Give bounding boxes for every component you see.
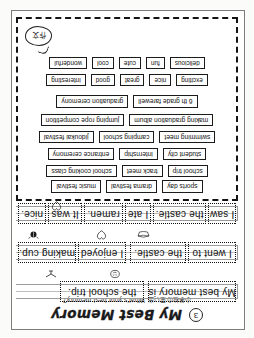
answer-text: I enjoyed	[81, 248, 123, 258]
word-chip[interactable]: great	[120, 74, 145, 86]
word-chip[interactable]: school trip	[168, 165, 208, 178]
word-chip[interactable]: sports day	[162, 180, 202, 193]
beetle-icon	[28, 231, 39, 239]
page-title: My Best Memory	[51, 307, 182, 323]
word-row: swimming meet camping school jidoukai fe…	[22, 131, 232, 144]
answer-segment[interactable]: I went to	[188, 242, 236, 263]
margin-tick	[237, 207, 238, 221]
answer-segment[interactable]: making cup.	[18, 242, 76, 263]
answer-text: I saw	[210, 209, 234, 219]
answer-text: the school trip.	[68, 287, 136, 297]
answer-segment[interactable]: ramen.	[84, 203, 123, 224]
word-chip[interactable]: swimming meet	[159, 131, 215, 144]
answer-segment[interactable]: nice.	[18, 203, 46, 224]
word-chip[interactable]: 6 th grade farewell	[133, 95, 197, 108]
answer-text: the castle.	[134, 248, 182, 258]
answer-text: ramen.	[87, 209, 119, 219]
word-row: making graduation album jumping rope com…	[22, 114, 232, 127]
smiley-face-icon	[110, 269, 120, 279]
answer-segment[interactable]: I ate	[125, 203, 151, 224]
answer-text: making cup.	[19, 248, 75, 258]
answer-text: I ate	[128, 209, 148, 219]
answer-segment[interactable]: I enjoyed	[78, 242, 126, 263]
word-chip[interactable]: fun	[146, 57, 165, 69]
answer-text: My best memory is	[148, 287, 235, 297]
word-chip[interactable]: good	[91, 74, 115, 86]
circled-number-icon: 3	[189, 308, 203, 322]
word-row: school trip track meet school cooking cl…	[22, 165, 232, 178]
word-row: student city internship entrance ceremon…	[22, 148, 232, 161]
answer-segment[interactable]: My best memory is	[148, 281, 236, 302]
word-chip[interactable]: school cooking class	[46, 165, 116, 178]
speech-balloon-icon: 作文	[26, 28, 52, 49]
scanned-page-rotated: 3 My Best Memory 小学校の思い出What's your best…	[0, 0, 254, 338]
answer-text: I went to	[192, 248, 232, 258]
word-chip[interactable]: jumping rope competition	[41, 114, 125, 127]
balloon-text: 作文	[25, 26, 52, 46]
bird-icon	[45, 270, 57, 279]
heart-icon	[51, 201, 62, 211]
answer-text: the castle.	[156, 209, 204, 219]
title-row: 3 My Best Memory	[10, 307, 244, 323]
answer-segment[interactable]: the school trip.	[60, 281, 144, 302]
word-chip[interactable]: cute	[119, 57, 141, 69]
word-chip[interactable]: nice	[149, 74, 171, 86]
word-chip[interactable]: making graduation album	[129, 114, 213, 127]
worksheet-sheet: 3 My Best Memory 小学校の思い出What's your best…	[11, 10, 245, 330]
word-chip[interactable]: camping school	[99, 131, 155, 144]
word-chip[interactable]: internship	[119, 148, 158, 161]
word-row: delicious fun cute cool wonderful	[22, 57, 232, 69]
writing-area: My best memory is the school trip.	[16, 190, 238, 303]
word-chip[interactable]: graduation ceremony	[56, 95, 128, 108]
word-row: exciting nice great good interesting	[22, 74, 232, 86]
word-chip[interactable]: interesting	[46, 74, 86, 86]
word-row: 6 th grade farewell graduation ceremony	[22, 95, 232, 108]
margin-tick	[237, 246, 238, 260]
heart-icon	[96, 230, 107, 240]
word-chip[interactable]: cool	[92, 57, 114, 69]
word-bank: sports day drama festival music festival…	[16, 17, 238, 201]
word-chip[interactable]: student city	[163, 148, 206, 161]
word-chip[interactable]: entrance ceremony	[48, 148, 114, 161]
word-chip[interactable]: track meet	[122, 165, 163, 178]
answer-segment[interactable]: the castle.	[130, 242, 186, 263]
word-chip[interactable]: jidoukai festival	[39, 131, 94, 144]
answer-segment[interactable]: I saw	[208, 203, 236, 224]
writing-line-2[interactable]: I went to the castle. I enjoyed making c…	[16, 229, 238, 264]
word-chip[interactable]: wonderful	[49, 57, 87, 69]
margin-tick	[237, 285, 238, 299]
answer-segment[interactable]: the castle.	[153, 203, 206, 224]
answer-text: nice.	[21, 209, 43, 219]
word-chip[interactable]: exciting	[176, 74, 208, 86]
ramen-bowl-icon	[137, 231, 150, 239]
word-row: sports day drama festival music festival	[22, 180, 232, 193]
word-chip[interactable]: delicious	[170, 57, 205, 69]
word-chip[interactable]: drama festival	[106, 180, 157, 193]
word-chip[interactable]: music festival	[51, 180, 101, 193]
